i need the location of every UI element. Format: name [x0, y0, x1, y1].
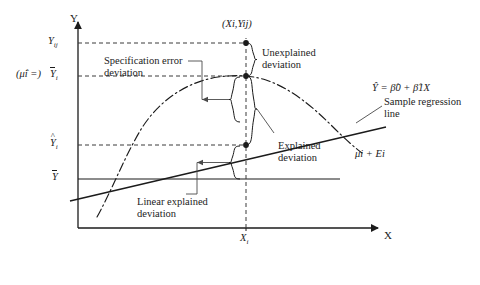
unexplained-deviation-line-2: deviation [262, 59, 316, 71]
y-hat-i-sub: i [56, 143, 58, 151]
y-axis-label: Y [70, 12, 78, 25]
sample-regression-line-2: line [384, 108, 461, 120]
y-ij-sub: ij [54, 41, 58, 49]
annotation-specification-error-deviation: Specification error deviation [104, 55, 182, 79]
y-tick-label-y-ij: Yij [48, 35, 58, 49]
x-axis-label: X [384, 229, 392, 242]
explained-deviation-line-2: deviation [278, 152, 321, 164]
leader-specification-error [188, 61, 229, 100]
leader-linear-explained [186, 163, 229, 195]
y-tick-label-y-bar-i: Yi [50, 68, 58, 82]
y-tick-label-y-bar: Y [52, 171, 58, 183]
specification-error-line-2: deviation [104, 67, 182, 79]
linear-explained-line-1: Linear explained [137, 196, 208, 208]
leader-sample-regression-line [356, 106, 382, 123]
leader-explained-deviation [257, 109, 274, 133]
y-hat-i-base: Y [50, 137, 56, 149]
y-bar-i-base: Y [50, 68, 56, 80]
specification-error-line-1: Specification error [104, 55, 182, 67]
brace-specification-error [229, 77, 240, 122]
brace-explained-deviation [246, 76, 257, 145]
y-bar-base: Y [52, 171, 58, 183]
x-i-sub: i [246, 238, 248, 246]
linear-explained-line-2: deviation [137, 208, 208, 220]
annotation-unexplained-deviation: Unexplained deviation [262, 47, 316, 71]
annotation-linear-explained-deviation: Linear explained deviation [137, 196, 208, 220]
sample-regression-line-1: Sample regression [384, 96, 461, 108]
mu-hat-equals-label: (μ̂i =) [16, 68, 41, 80]
annotation-explained-deviation: Explained deviation [278, 140, 321, 164]
curve-label-mu-plus-e: μi + Ei [355, 148, 385, 160]
y-bar-i-sub: i [56, 74, 58, 82]
unexplained-deviation-line-1: Unexplained [262, 47, 316, 59]
point-xi-yij-label: (Xi,Yij) [222, 18, 252, 30]
y-tick-label-y-hat-i: Yi [50, 137, 58, 151]
sample-regression-equation: Ŷ = β̂0 + β̂1X [372, 82, 430, 94]
sample-regression-line-path [70, 127, 386, 201]
axis-group [78, 22, 378, 228]
explained-deviation-line-1: Explained [278, 140, 321, 152]
x-tick-label-x-i: Xi [240, 232, 248, 246]
deviation-decomposition-figure: Y X Yij Yi Yi Y Xi (μ̂i =) (Xi,Yij) Unex… [0, 0, 480, 285]
brace-unexplained-deviation [246, 43, 257, 76]
annotation-sample-regression-line: Sample regression line [384, 96, 461, 120]
